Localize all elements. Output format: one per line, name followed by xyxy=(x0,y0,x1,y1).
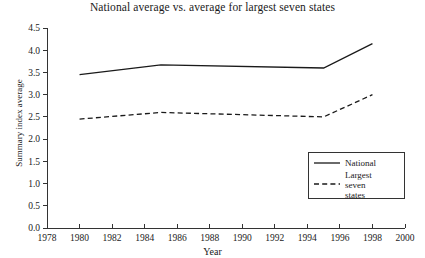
x-tick-label: 1988 xyxy=(200,233,219,243)
x-tick-label: 1992 xyxy=(265,233,284,243)
legend-label-largest-seven-states-line1: Largest xyxy=(345,170,372,180)
y-tick-label: 4.0 xyxy=(28,46,40,56)
x-tick-label: 1986 xyxy=(168,233,187,243)
y-tick-group: 0.00.51.01.52.02.53.03.54.04.5 xyxy=(28,23,47,233)
x-tick-label: 1990 xyxy=(233,233,252,243)
legend-label-national: National xyxy=(345,158,376,168)
chart-figure: National average vs. average for largest… xyxy=(0,0,425,258)
chart-legend: National Largest seven states xyxy=(308,152,404,200)
y-tick-label: 1.0 xyxy=(28,179,40,189)
y-tick-label: 4.5 xyxy=(28,23,40,33)
y-tick-label: 0.0 xyxy=(28,223,40,233)
x-tick-group: 1978198019821984198619881990199219941996… xyxy=(38,224,415,243)
legend-label-largest-seven-states-line3: states xyxy=(345,190,365,200)
x-axis: 1978198019821984198619881990199219941996… xyxy=(38,224,415,243)
x-tick-label: 1978 xyxy=(38,233,57,243)
y-tick-label: 2.0 xyxy=(28,134,40,144)
x-tick-label: 1998 xyxy=(363,233,382,243)
x-tick-label: 1996 xyxy=(330,233,349,243)
legend-label-largest-seven-states-line2: seven xyxy=(345,180,366,190)
data-series-group xyxy=(80,44,373,120)
series-line-national xyxy=(80,44,373,75)
x-tick-label: 1980 xyxy=(70,233,89,243)
x-tick-label: 1982 xyxy=(103,233,122,243)
y-tick-label: 0.5 xyxy=(28,201,40,211)
x-tick-label: 2000 xyxy=(396,233,415,243)
y-axis: 0.00.51.01.52.02.53.03.54.04.5 xyxy=(28,23,47,233)
x-tick-label: 1994 xyxy=(298,233,317,243)
y-tick-label: 2.5 xyxy=(28,112,40,122)
y-tick-label: 3.0 xyxy=(28,90,40,100)
x-tick-label: 1984 xyxy=(135,233,154,243)
series-line-largest-seven-states xyxy=(80,95,373,119)
y-tick-label: 1.5 xyxy=(28,157,40,167)
plot-area: 0.00.51.01.52.02.53.03.54.04.5 197819801… xyxy=(0,0,425,258)
y-tick-label: 3.5 xyxy=(28,68,40,78)
